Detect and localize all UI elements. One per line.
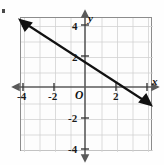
y-tick-label-4: 4 <box>72 21 78 32</box>
y-axis-letter: y <box>88 12 93 24</box>
x-tick-label--4: -4 <box>17 91 26 102</box>
x-tick-label--2: -2 <box>48 91 57 102</box>
x-tick-label-2: 2 <box>113 91 119 102</box>
origin-label: O <box>75 89 83 101</box>
plotted-line <box>0 0 164 165</box>
graph-figure: -4 -2 2 4 2 -2 -4 O y x <box>0 0 164 165</box>
line-arrow-upper-left <box>20 20 31 30</box>
y-tick-label--4: -4 <box>68 144 77 155</box>
y-tick-label--2: -2 <box>68 113 77 124</box>
y-tick-label-2: 2 <box>72 52 78 63</box>
line-segment <box>23 22 148 103</box>
x-axis-letter: x <box>152 75 158 87</box>
line-arrow-lower-right <box>140 95 151 105</box>
